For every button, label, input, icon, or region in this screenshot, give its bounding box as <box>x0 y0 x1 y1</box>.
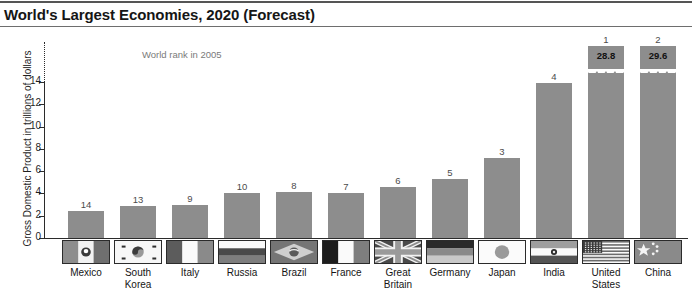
bar-column[interactable]: 10 <box>224 41 260 239</box>
bar-column[interactable]: 5 <box>432 41 468 239</box>
country-label-line1: Japan <box>476 267 528 279</box>
bar[interactable] <box>484 158 520 238</box>
country-label: Italy <box>164 267 216 279</box>
bar-column[interactable]: 6 <box>380 41 416 239</box>
bar-rank-label: 14 <box>68 199 104 210</box>
country-label-line1: Germany <box>424 267 476 279</box>
country-label-line1: Brazil <box>268 267 320 279</box>
country-legend-cell[interactable]: India <box>528 240 580 279</box>
bar[interactable] <box>224 193 260 238</box>
country-legend-cell[interactable]: GreatBritain <box>372 240 424 290</box>
y-tick-label: 12 <box>30 97 41 108</box>
bar[interactable] <box>432 179 468 238</box>
bar[interactable] <box>120 206 156 238</box>
y-tick-4: 4 <box>44 193 49 194</box>
united-states-flag-icon <box>582 240 630 264</box>
bar[interactable] <box>68 211 104 238</box>
country-legend-cell[interactable]: SouthKorea <box>112 240 164 290</box>
y-tick-label: 0 <box>35 231 41 242</box>
bar-rank-label: 6 <box>380 175 416 186</box>
country-legend-cell[interactable]: Brazil <box>268 240 320 279</box>
bar-column[interactable]: 4 <box>536 41 572 239</box>
great-britain-flag-icon <box>374 240 422 264</box>
y-tick-label: 2 <box>35 209 41 220</box>
country-label-line1: Russia <box>216 267 268 279</box>
country-label: Japan <box>476 267 528 279</box>
bar[interactable] <box>276 192 312 238</box>
bar-column[interactable]: 7 <box>328 41 364 239</box>
bar-rank-label: 7 <box>328 181 364 192</box>
country-legend-cell[interactable]: Russia <box>216 240 268 279</box>
country-legend-cell[interactable]: Germany <box>424 240 476 279</box>
y-tick-label: 10 <box>30 120 41 131</box>
bar-column[interactable]: 9 <box>172 41 208 239</box>
bar-rank-label: 13 <box>120 194 156 205</box>
mexico-flag-icon <box>62 240 110 264</box>
bar[interactable] <box>172 205 208 238</box>
bar[interactable] <box>588 46 624 238</box>
title-rule-bottom <box>0 26 692 27</box>
bar-rank-label: 5 <box>432 167 468 178</box>
country-legend-cell[interactable]: Japan <box>476 240 528 279</box>
bar-column[interactable]: 29.62 <box>640 41 676 239</box>
country-label-line1: France <box>320 267 372 279</box>
y-tick-6: 6 <box>44 171 49 172</box>
country-label-line2: States <box>580 279 632 291</box>
country-legend-cell[interactable]: Mexico <box>60 240 112 279</box>
south-korea-flag-icon <box>114 240 162 264</box>
country-legend-cell[interactable]: Italy <box>164 240 216 279</box>
y-tick-label: 4 <box>35 186 41 197</box>
country-legend-cell[interactable]: China <box>632 240 684 279</box>
y-tick-label: 14 <box>30 75 41 86</box>
country-label: UnitedStates <box>580 267 632 290</box>
bar-rank-label: 8 <box>276 180 312 191</box>
title-rule-top <box>0 1 692 3</box>
bar[interactable] <box>536 83 572 238</box>
bar[interactable] <box>640 46 676 238</box>
country-label-line1: Great <box>372 267 424 279</box>
brazil-flag-icon <box>270 240 318 264</box>
country-label: Russia <box>216 267 268 279</box>
chart-page: World's Largest Economies, 2020 (Forecas… <box>0 0 692 298</box>
germany-flag-icon <box>426 240 474 264</box>
bar-value-label: 28.8 <box>588 50 624 61</box>
country-label: Germany <box>424 267 476 279</box>
y-axis-break-dotted <box>44 42 45 82</box>
country-label: Mexico <box>60 267 112 279</box>
country-label-line1: Italy <box>164 267 216 279</box>
bar-rank-label: 2 <box>640 34 676 45</box>
country-label: China <box>632 267 684 279</box>
country-label: SouthKorea <box>112 267 164 290</box>
bar-column[interactable]: 13 <box>120 41 156 239</box>
country-label: GreatBritain <box>372 267 424 290</box>
bar-column[interactable]: 14 <box>68 41 104 239</box>
country-label-line1: United <box>580 267 632 279</box>
japan-flag-icon <box>478 240 526 264</box>
axis-break-zigzag-icon <box>588 64 624 73</box>
bar-rank-label: 1 <box>588 34 624 45</box>
country-legend-row: MexicoSouthKoreaItalyRussiaBrazilFranceG… <box>44 240 688 298</box>
bar-rank-label: 4 <box>536 71 572 82</box>
y-tick-14: 14 <box>44 82 49 83</box>
country-legend-cell[interactable]: France <box>320 240 372 279</box>
axis-break-zigzag-icon <box>640 64 676 73</box>
bar-value-label: 29.6 <box>640 50 676 61</box>
bar[interactable] <box>328 193 364 238</box>
y-tick-0: 0 <box>44 238 49 239</box>
y-tick-12: 12 <box>44 104 49 105</box>
y-tick-8: 8 <box>44 149 49 150</box>
plot-area: 02468101214 World rank in 2005 141391087… <box>44 40 688 239</box>
country-label: India <box>528 267 580 279</box>
russia-flag-icon <box>218 240 266 264</box>
y-tick-2: 2 <box>44 216 49 217</box>
bar[interactable] <box>380 187 416 238</box>
y-tick-10: 10 <box>44 127 49 128</box>
france-flag-icon <box>322 240 370 264</box>
bar-column[interactable]: 8 <box>276 41 312 239</box>
india-flag-icon <box>530 240 578 264</box>
country-label: Brazil <box>268 267 320 279</box>
country-label-line2: Britain <box>372 279 424 291</box>
bar-column[interactable]: 28.81 <box>588 41 624 239</box>
country-legend-cell[interactable]: UnitedStates <box>580 240 632 290</box>
bar-column[interactable]: 3 <box>484 41 520 239</box>
